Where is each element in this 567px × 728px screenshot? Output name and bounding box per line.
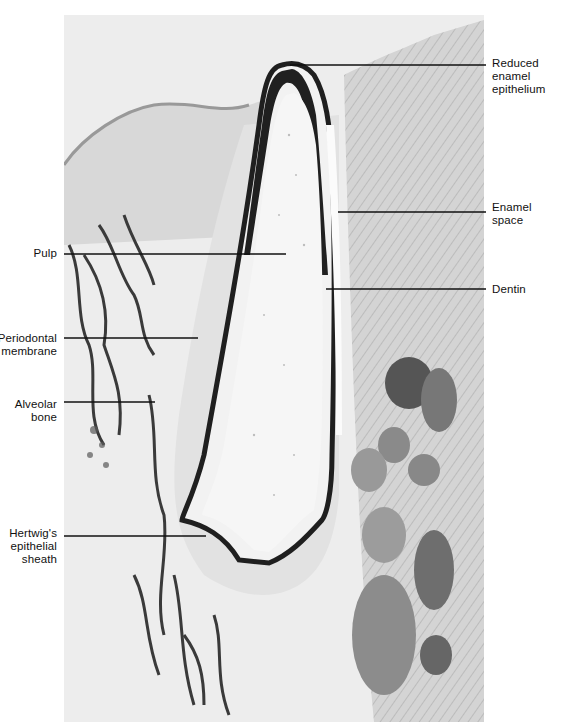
tissue-illustration: [64, 15, 484, 722]
label-hertwigs-epithelial-sheath: Hertwig's epithelial sheath: [9, 527, 57, 566]
label-periodontal-membrane: Periodontal membrane: [0, 332, 57, 358]
micrograph-image: [64, 15, 484, 722]
label-dentin: Dentin: [492, 283, 526, 296]
label-pulp: Pulp: [34, 247, 57, 260]
tooth-histology-figure: Reduced enamel epithelium Enamel space D…: [0, 0, 567, 728]
label-reduced-enamel-epithelium: Reduced enamel epithelium: [492, 57, 545, 96]
label-alveolar-bone: Alveolar bone: [15, 398, 57, 424]
label-enamel-space: Enamel space: [492, 201, 532, 227]
